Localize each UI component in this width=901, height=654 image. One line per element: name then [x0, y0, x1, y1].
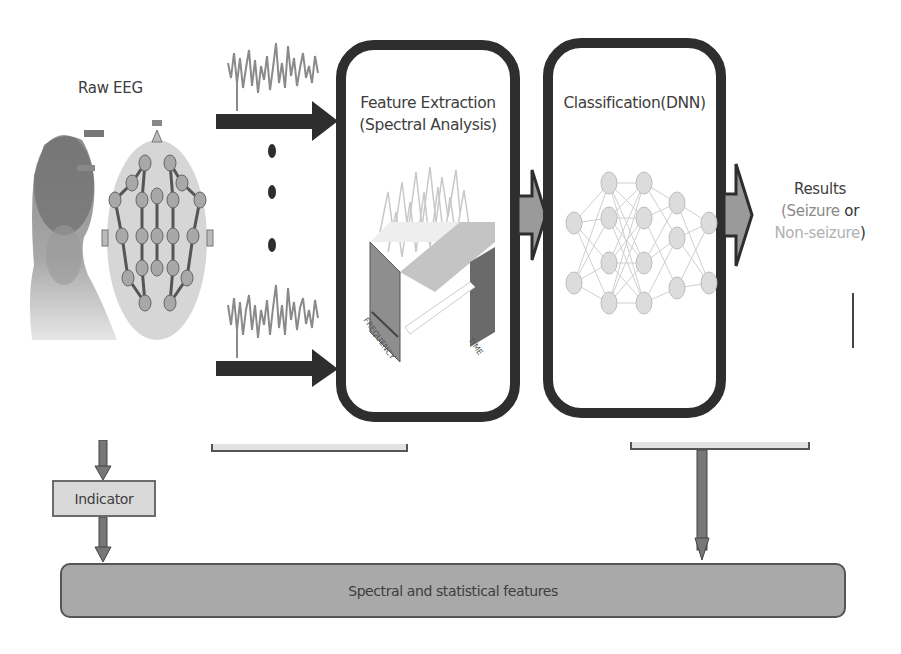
non-seizure-label: Non-seizure [774, 224, 860, 242]
classification-box: Classification(DNN) [543, 38, 726, 418]
classification-title: Classification(DNN) [547, 92, 722, 114]
feature-extraction-box: Feature Extraction (Spectral Analysis) F… [336, 40, 520, 422]
ellipsis-dot [268, 238, 276, 252]
down-arrow-from-classification [693, 450, 711, 562]
feature-extraction-title-line2: (Spectral Analysis) [346, 114, 510, 136]
vertical-mark [852, 293, 854, 348]
electrode-montage-icon [100, 118, 215, 343]
spectral-statistical-features-bar: Spectral and statistical features [60, 563, 846, 618]
seizure-label: Seizure [787, 202, 840, 220]
or-label: or [840, 202, 859, 220]
ellipsis-dot [268, 144, 276, 158]
down-arrow-to-indicator [94, 440, 112, 482]
results-options-line2: Non-seizure) [760, 222, 880, 244]
input-arrow-top [212, 97, 342, 143]
neural-network-icon [559, 168, 719, 338]
down-arrow-to-features [94, 517, 112, 563]
feature-extraction-title-line1: Feature Extraction [346, 92, 510, 114]
right-bracket [630, 442, 810, 450]
ellipsis-dot [268, 185, 276, 199]
feature-extraction-title: Feature Extraction (Spectral Analysis) [346, 92, 510, 136]
left-bracket [211, 444, 408, 452]
results-label: Results (Seizure or Non-seizure) [760, 178, 880, 244]
results-title: Results [760, 178, 880, 200]
results-options-line1: (Seizure or [760, 200, 880, 222]
time-frequency-spectrogram-icon: FREQUENCY TIME [360, 162, 500, 372]
close-paren: ) [860, 224, 866, 242]
output-arrow [722, 162, 754, 268]
input-arrow-bottom [212, 345, 342, 391]
indicator-box: Indicator [52, 480, 156, 517]
raw-eeg-title: Raw EEG [78, 79, 143, 97]
